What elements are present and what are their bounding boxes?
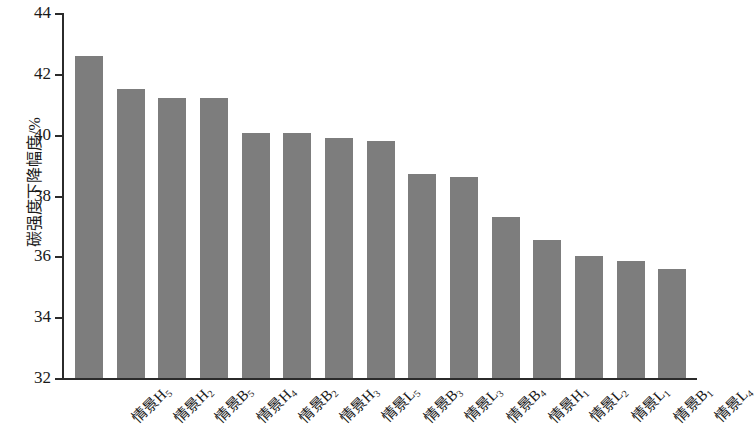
bar: [617, 261, 645, 378]
bar: [283, 133, 311, 378]
x-tick-label: 情景B1: [668, 380, 715, 427]
y-tick-mark: [55, 196, 62, 198]
x-tick-label: 情景H2: [168, 380, 215, 427]
bar: [408, 174, 436, 378]
bar: [158, 98, 186, 378]
plot-area: 32343638404244: [62, 13, 695, 378]
x-tick-label: 情景L5: [376, 380, 422, 426]
x-tick-label: 情景L2: [584, 380, 630, 426]
x-tick-label: 情景B5: [209, 380, 256, 427]
bar: [575, 256, 603, 378]
bar: [325, 138, 353, 378]
x-tick-label: 情景B2: [293, 380, 340, 427]
bar: [117, 89, 145, 378]
bar-series: [62, 13, 695, 378]
y-tick-mark: [55, 317, 62, 319]
y-tick-label: 36: [34, 246, 51, 266]
y-tick-mark: [55, 256, 62, 258]
bar: [450, 177, 478, 378]
y-tick-mark: [55, 13, 62, 15]
x-tick-label: 情景B4: [501, 380, 548, 427]
y-tick-mark: [55, 135, 62, 137]
y-tick-label: 38: [34, 186, 51, 206]
y-tick-label: 34: [34, 307, 51, 327]
x-tick-label: 情景L1: [626, 380, 672, 426]
bar: [533, 240, 561, 378]
bar: [75, 56, 103, 378]
x-tick-label: 情景H1: [543, 380, 590, 427]
x-tick-label: 情景H3: [335, 380, 382, 427]
bar: [658, 269, 686, 379]
y-tick-label: 40: [34, 125, 51, 145]
bar: [242, 133, 270, 378]
x-tick-label: 情景H5: [126, 380, 173, 427]
x-tick-label: 情景H4: [251, 380, 298, 427]
y-tick-mark: [55, 74, 62, 76]
bar: [367, 141, 395, 378]
y-tick-mark: [55, 378, 62, 380]
bar: [200, 98, 228, 378]
y-tick-label: 42: [34, 64, 51, 84]
bar: [492, 217, 520, 378]
x-axis-tick-labels: 情景H5情景H2情景B5情景H4情景B2情景H3情景L5情景B3情景L3情景B4…: [62, 380, 702, 445]
y-tick-label: 44: [34, 3, 51, 23]
x-tick-label: 情景B3: [418, 380, 465, 427]
y-tick-label: 32: [34, 368, 51, 388]
x-tick-label: 情景L3: [459, 380, 505, 426]
x-tick-label: 情景L4: [709, 380, 755, 426]
